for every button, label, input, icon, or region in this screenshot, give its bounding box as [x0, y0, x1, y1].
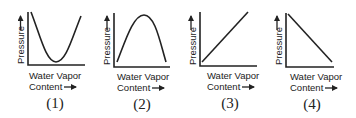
- graph-panel-3: Pressure Water Vapor Content (3): [187, 12, 259, 112]
- x-axis-label-line2: Content: [29, 81, 63, 92]
- y-axis-label: Pressure: [273, 27, 284, 65]
- x-axis-label-line1: Water Vapor: [29, 70, 81, 81]
- x-axis-label-line2: Content: [117, 82, 151, 93]
- x-axis-label-line1: Water Vapor: [207, 70, 259, 81]
- axes: [200, 12, 257, 66]
- panel-number-4: (4): [303, 96, 321, 113]
- panel-number-1: (1): [46, 95, 64, 112]
- axes: [28, 12, 85, 65]
- y-axis-label: Pressure: [15, 26, 26, 64]
- axes: [114, 13, 170, 67]
- y-axis-label: Pressure: [187, 27, 198, 65]
- diagram-canvas: Pressure Water Vapor Content (1) Pressur…: [0, 0, 356, 118]
- graph-panel-4: Pressure Water Vapor Content (4): [273, 13, 342, 113]
- x-axis-label-line2: Content: [207, 81, 241, 92]
- panel-number-3: (3): [221, 95, 239, 112]
- graph-panel-1: Pressure Water Vapor Content (1): [15, 12, 85, 112]
- axes: [286, 13, 334, 67]
- x-axis-label-line1: Water Vapor: [290, 71, 342, 82]
- y-axis-label: Pressure: [101, 27, 112, 65]
- graph-panel-2: Pressure Water Vapor Content (2): [101, 13, 170, 113]
- x-axis-label-line1: Water Vapor: [117, 71, 169, 82]
- panel-number-2: (2): [133, 96, 151, 113]
- curve-u-shape: [31, 12, 81, 62]
- line-increasing: [202, 12, 248, 62]
- x-axis-label-line2: Content: [290, 82, 324, 93]
- line-decreasing: [288, 14, 332, 62]
- curve-inverted-u: [117, 15, 166, 62]
